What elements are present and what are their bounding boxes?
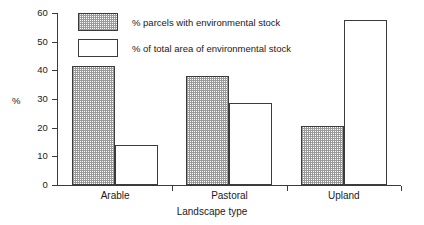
y-tick-label-30: 30 xyxy=(24,94,48,104)
y-tick-label-0: 0 xyxy=(24,180,48,190)
legend-swatch-open-icon xyxy=(78,39,118,57)
x-axis-end-tick xyxy=(401,186,402,191)
bar-arable-series2 xyxy=(115,145,158,185)
legend-swatch-hatched-icon xyxy=(78,13,118,31)
y-tick-0 xyxy=(52,185,57,186)
bar-chart: 0102030405060 % Landscape type ArablePas… xyxy=(0,0,424,225)
y-tick-60 xyxy=(52,13,57,14)
bar-pastoral-series2 xyxy=(229,103,272,185)
y-tick-30 xyxy=(52,99,57,100)
legend-label-total-area: % of total area of environmental stock xyxy=(132,43,291,54)
x-axis-line xyxy=(57,185,401,186)
bar-arable-series1 xyxy=(72,66,115,185)
y-tick-20 xyxy=(52,128,57,129)
y-tick-label-20: 20 xyxy=(24,123,48,133)
legend-label-parcels: % parcels with environmental stock xyxy=(132,17,280,28)
bar-upland-series2 xyxy=(344,20,387,185)
legend-item-total-area: % of total area of environmental stock xyxy=(78,38,291,58)
legend-item-parcels: % parcels with environmental stock xyxy=(78,12,291,32)
x-category-label-arable: Arable xyxy=(58,190,172,202)
bar-upland-series1 xyxy=(301,126,344,185)
y-tick-40 xyxy=(52,70,57,71)
y-tick-10 xyxy=(52,156,57,157)
y-tick-50 xyxy=(52,42,57,43)
y-tick-label-50: 50 xyxy=(24,37,48,47)
y-tick-label-60: 60 xyxy=(24,8,48,18)
y-tick-label-10: 10 xyxy=(24,151,48,161)
x-category-label-upland: Upland xyxy=(287,190,401,202)
y-axis-title: % xyxy=(12,96,20,106)
x-axis-title: Landscape type xyxy=(0,206,424,217)
y-axis-line xyxy=(57,13,58,186)
y-tick-label-40: 40 xyxy=(24,65,48,75)
bar-pastoral-series1 xyxy=(186,76,229,185)
chart-legend: % parcels with environmental stock % of … xyxy=(78,12,291,64)
x-category-label-pastoral: Pastoral xyxy=(172,190,286,202)
